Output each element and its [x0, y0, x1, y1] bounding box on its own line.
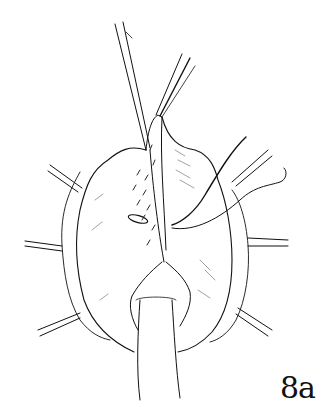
lower-opening — [130, 262, 190, 330]
outer-tissue-edge — [62, 172, 249, 342]
surgical-illustration — [0, 0, 328, 419]
stay-sutures-right — [232, 150, 288, 336]
figure-label: 8a — [280, 370, 315, 405]
central-ridge — [146, 115, 166, 262]
suture-thread — [172, 137, 286, 229]
organ-outline — [77, 117, 232, 352]
shading — [92, 150, 215, 300]
upper-instrument — [115, 22, 150, 150]
stay-sutures-left — [25, 165, 82, 336]
catheter-tube — [136, 297, 180, 400]
hatch-marks — [133, 145, 155, 245]
upper-right-forceps — [156, 54, 195, 117]
